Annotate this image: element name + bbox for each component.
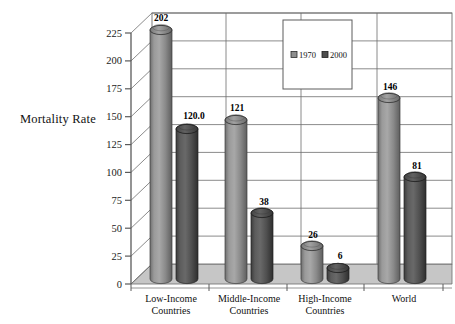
- legend[interactable]: 1970 2000: [283, 20, 352, 89]
- category-label-low-income-line1: Low-Income: [145, 293, 197, 304]
- category-label-high-income-line1: High-Income: [298, 293, 352, 304]
- y-axis-ticks: [125, 33, 131, 284]
- bar-high-income-1970[interactable]: [301, 241, 323, 284]
- value-label-middle-1970: 121: [230, 103, 245, 113]
- value-label-low-2000: 120.0: [183, 111, 205, 121]
- y-tick-175: 175: [106, 83, 122, 94]
- x-axis-line: [131, 284, 452, 291]
- figure-caption: [6, 316, 446, 324]
- category-label-world-line1: World: [392, 293, 417, 304]
- category-label-high-income-line2: Countries: [306, 305, 345, 316]
- y-tick-25: 25: [112, 251, 123, 262]
- legend-swatch-1970: [291, 52, 297, 58]
- value-label-high-1970: 26: [308, 230, 318, 240]
- value-label-world-1970: 146: [383, 82, 398, 92]
- x-axis-category-labels: Low-Income Countries Middle-Income Count…: [145, 293, 416, 316]
- bar-high-income-2000[interactable]: [327, 263, 349, 283]
- legend-label-2000: 2000: [330, 50, 347, 60]
- bar-middle-income-2000[interactable]: [251, 208, 273, 284]
- y-tick-125: 125: [106, 139, 122, 150]
- bar-world-2000[interactable]: [404, 172, 426, 284]
- bar-middle-income-1970[interactable]: [225, 115, 247, 284]
- legend-label-1970: 1970: [299, 50, 316, 60]
- category-label-low-income-line2: Countries: [152, 305, 191, 316]
- category-label-middle-income-line1: Middle-Income: [218, 293, 281, 304]
- chart-container: Mortality Rate: [0, 0, 455, 324]
- y-tick-75: 75: [112, 195, 123, 206]
- y-tick-100: 100: [106, 167, 122, 178]
- value-label-high-2000: 6: [338, 251, 343, 261]
- y-tick-0: 0: [117, 279, 122, 290]
- bar-low-income-2000[interactable]: [176, 124, 198, 284]
- y-tick-225: 225: [106, 28, 122, 39]
- bar-low-income-1970[interactable]: [150, 24, 172, 283]
- value-label-world-2000: 81: [412, 161, 422, 171]
- y-axis-tick-labels: 225 200 175 150 125 100 75 50 25 0: [106, 28, 122, 290]
- y-tick-200: 200: [106, 55, 122, 66]
- y-tick-50: 50: [112, 223, 123, 234]
- category-label-middle-income-line2: Countries: [230, 305, 269, 316]
- value-label-low-1970: 202: [154, 13, 169, 23]
- bar-world-1970[interactable]: [378, 93, 400, 284]
- y-tick-150: 150: [106, 111, 122, 122]
- value-label-middle-2000: 38: [259, 197, 269, 207]
- legend-swatch-2000: [322, 52, 328, 58]
- bar-chart-graphic: 225 200 175 150 125 100 75 50 25 0: [0, 0, 455, 324]
